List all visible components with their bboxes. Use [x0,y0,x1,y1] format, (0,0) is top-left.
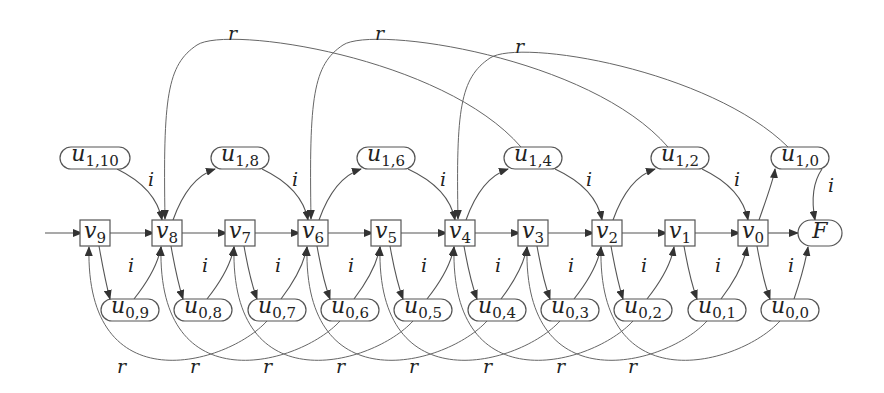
edge-v6-u0-6 [317,246,330,299]
edge-u0-6-v5 [354,247,380,299]
label-r-bottom-3: r [336,355,347,377]
label-i-top-1: i [292,168,298,190]
node-u1_10: u1,10 [60,141,130,170]
label-r-bottom-6: r [556,355,567,377]
node-u1_6-label: u1,6 [367,141,405,170]
node-v5: v5 [371,218,401,247]
node-v9: v9 [80,218,110,247]
node-u1_8-label: u1,8 [221,141,259,170]
node-u1_0: u1,0 [771,141,829,170]
node-u0_1-label: u0,1 [698,293,736,322]
edge-v9-u0-9 [99,246,110,299]
edge-u0-3-v2 [574,247,601,299]
label-i-bottom-9: i [788,254,794,276]
edge-u0-9-v8 [134,247,161,299]
node-u0_6-label: u0,6 [331,293,369,322]
node-u1_8: u1,8 [211,141,269,170]
edge-v2-u0-2 [611,246,623,299]
label-r-top-0: r [228,22,239,44]
label-i-bottom-8: i [715,254,721,276]
edge-v2-u1-2 [613,169,655,220]
edge-v4-u1-4 [466,169,508,220]
label-i-bottom-0: i [128,254,134,276]
edge-u1-4-v2 [555,169,602,220]
label-i-bottom-1: i [202,254,208,276]
edge-u0-5-v4 [427,247,454,299]
label-r-top-1: r [375,22,386,44]
node-u0_7-label: u0,7 [258,293,296,322]
label-r-bottom-2: r [263,355,274,377]
label-r-top-2: r [515,35,526,57]
edge-v0-u1-0 [759,169,775,220]
label-i-top-3: i [586,168,592,190]
edge-u1-0-F [813,169,822,220]
edge-u1-10-v8 [117,169,162,220]
edge-v8-u0-8 [171,246,183,299]
label-r-bottom-4: r [409,355,420,377]
node-u1_0-label: u1,0 [781,141,819,170]
node-u0_3-label: u0,3 [551,293,589,322]
node-v2: v2 [592,218,622,247]
node-v0: v0 [738,218,768,247]
node-F: F [798,218,842,246]
node-u1_2-label: u1,2 [661,141,699,170]
edge-v5-u0-5 [390,246,403,299]
label-r-bottom-1: r [190,355,201,377]
node-u0_9-label: u0,9 [111,293,149,322]
edge-u0-4-v3 [501,247,527,299]
node-v1: v1 [665,218,695,247]
node-u0_5-label: u0,5 [404,293,442,322]
node-v8: v8 [152,218,182,247]
node-u0_2-label: u0,2 [624,293,662,322]
edge-v7-u0-7 [244,246,257,299]
label-r-bottom-0: r [117,355,128,377]
node-u1_2: u1,2 [651,141,709,170]
automaton-diagram: v9v8v7v6v5v4v3v2v1v0Fu1,10u1,8u1,6u1,4u1… [0,0,884,393]
node-u1_4-label: u1,4 [514,141,552,170]
node-v3: v3 [518,218,548,247]
node-v7: v7 [225,218,255,247]
edge-u0-0-F [794,247,808,299]
node-u0_0-label: u0,0 [771,293,809,322]
edge-u0-2-v1 [647,247,674,299]
edge-v6-u1-6 [319,169,361,220]
edge-v0-u0-0 [757,246,770,299]
label-r-bottom-5: r [483,355,494,377]
edge-v3-u0-3 [537,246,550,299]
edge-u0-7-v6 [281,247,307,299]
label-i-top-5: i [828,174,834,196]
reset-arc-u1_0 [458,52,788,219]
node-v4: v4 [445,218,475,247]
edge-u1-6-v4 [408,169,455,220]
label-i-bottom-7: i [641,254,647,276]
label-i-bottom-2: i [275,254,281,276]
label-i-bottom-4: i [421,254,427,276]
node-u0_4-label: u0,4 [478,293,516,322]
label-i-top-2: i [440,168,446,190]
label-i-top-0: i [148,168,154,190]
node-u0_8-label: u0,8 [184,293,222,322]
label-r-bottom-7: r [628,355,639,377]
edge-v1-u0-1 [684,246,697,299]
label-i-bottom-6: i [568,254,574,276]
edge-u1-2-v0 [702,169,748,220]
edge-u0-8-v7 [207,247,234,299]
reset-arc-u1_4 [165,39,521,219]
node-u1_10-label: u1,10 [71,141,119,170]
edge-u1-8-v6 [262,169,308,220]
label-i-top-4: i [734,168,740,190]
node-u1_4: u1,4 [504,141,562,170]
edge-u0-1-v0 [721,247,747,299]
label-i-bottom-5: i [495,254,501,276]
edge-v4-u0-4 [464,246,477,299]
node-v6: v6 [298,218,328,247]
edge-v8-u1-8 [173,169,215,220]
diagram-svg: v9v8v7v6v5v4v3v2v1v0Fu1,10u1,8u1,6u1,4u1… [0,0,884,393]
reset-arc-u1_2 [311,39,668,219]
node-F-label: F [811,218,828,243]
node-u1_6: u1,6 [357,141,415,170]
label-i-bottom-3: i [348,254,354,276]
